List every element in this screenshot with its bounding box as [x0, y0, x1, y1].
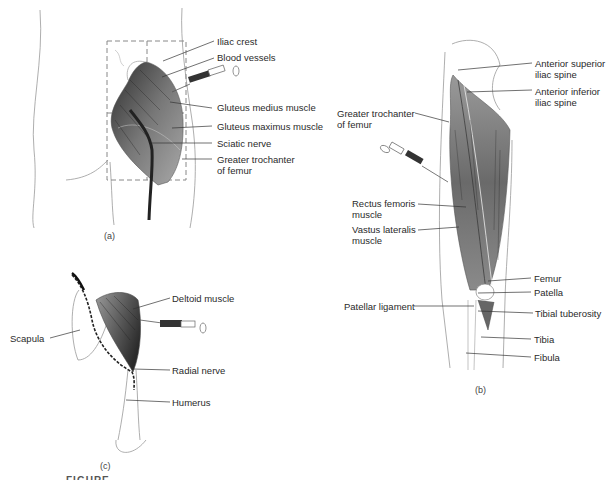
syringe-a-icon [172, 65, 239, 92]
figure-caption-partial: FIGURE [66, 474, 136, 480]
label-patellar-ligament: Patellar ligament [344, 301, 415, 312]
label-sciatic-nerve: Sciatic nerve [217, 138, 271, 149]
label-radial-nerve: Radial nerve [172, 365, 225, 376]
label-greater-trochanter-a: Greater trochanter of femur [217, 154, 297, 176]
panel-label-c: (c) [100, 461, 111, 471]
panel-a-gluteal [33, 8, 239, 228]
label-patella: Patella [534, 287, 563, 298]
label-gluteus-maximus: Gluteus maximus muscle [217, 121, 323, 132]
panel-label-b: (b) [475, 385, 486, 395]
illustration-canvas [0, 0, 608, 480]
label-aiis: Anterior inferior iliac spine [535, 86, 607, 108]
label-deltoid-muscle: Deltoid muscle [172, 293, 234, 304]
label-scapula: Scapula [10, 333, 44, 344]
syringe-b-icon [379, 142, 448, 182]
gluteus-muscle [111, 62, 183, 185]
patella [476, 284, 494, 300]
label-asis: Anterior superior iliac spine [535, 58, 608, 80]
label-tibial-tuberosity: Tibial tuberosity [535, 308, 601, 319]
label-fibula: Fibula [534, 352, 560, 363]
thigh-muscles [450, 75, 510, 290]
panel-label-a: (a) [104, 231, 115, 241]
label-blood-vessels: Blood vessels [217, 52, 276, 63]
label-rectus-femoris: Rectus femoris muscle [352, 198, 418, 220]
label-femur: Femur [534, 273, 561, 284]
label-humerus: Humerus [172, 397, 211, 408]
caption-text: FIGURE [66, 475, 110, 480]
label-iliac-crest: Iliac crest [217, 36, 257, 47]
label-vastus-lateralis: Vastus lateralis muscle [352, 224, 418, 246]
deltoid-muscle [96, 293, 141, 373]
label-gluteus-medius: Gluteus medius muscle [217, 102, 316, 113]
label-greater-trochanter-b: Greater trochanter of femur [337, 108, 417, 130]
syringe-c-icon [140, 320, 206, 333]
label-tibia: Tibia [534, 334, 554, 345]
